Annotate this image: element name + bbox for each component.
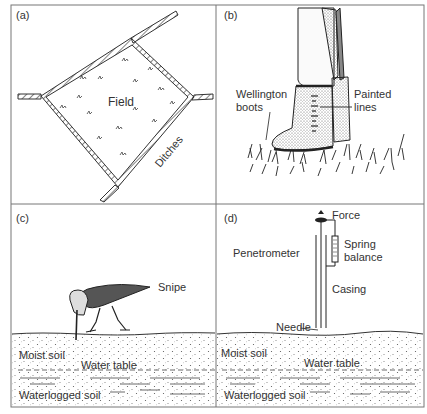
painted-lines-label-line2: lines — [354, 101, 377, 113]
panel-d-drawing — [217, 210, 423, 406]
spring-balance-label-line2: balance — [344, 251, 383, 263]
wellington-label-line1: Wellington — [236, 88, 287, 100]
force-label: Force — [332, 209, 360, 221]
panel-c-drawing — [12, 285, 215, 407]
spring-balance-label-line1: Spring — [344, 238, 376, 250]
painted-lines-label-line1: Painted — [354, 88, 391, 100]
needle-label: Needle — [276, 321, 311, 333]
panel-a-label: (a) — [16, 9, 29, 21]
figure-drawing: (a) Field Ditches — [0, 0, 427, 414]
moist-soil-label-d: Moist soil — [221, 347, 267, 359]
panel-b-label: (b) — [224, 9, 237, 21]
wellington-label-line2: boots — [236, 101, 263, 113]
figure: (a) Field Ditches — [0, 0, 427, 414]
panel-d-label: (d) — [224, 212, 237, 224]
snipe-label: Snipe — [158, 281, 186, 293]
moist-soil-label-c: Moist soil — [19, 349, 65, 361]
penetrometer-label: Penetrometer — [233, 247, 300, 259]
panel-c-label: (c) — [16, 212, 29, 224]
waterlogged-soil-label-d: Waterlogged soil — [224, 389, 306, 401]
water-table-label-d: Water table — [304, 357, 360, 369]
casing-label: Casing — [332, 283, 366, 295]
waterlogged-soil-label-c: Waterlogged soil — [19, 389, 101, 401]
field-label: Field — [108, 95, 134, 109]
water-table-label-c: Water table — [81, 359, 137, 371]
